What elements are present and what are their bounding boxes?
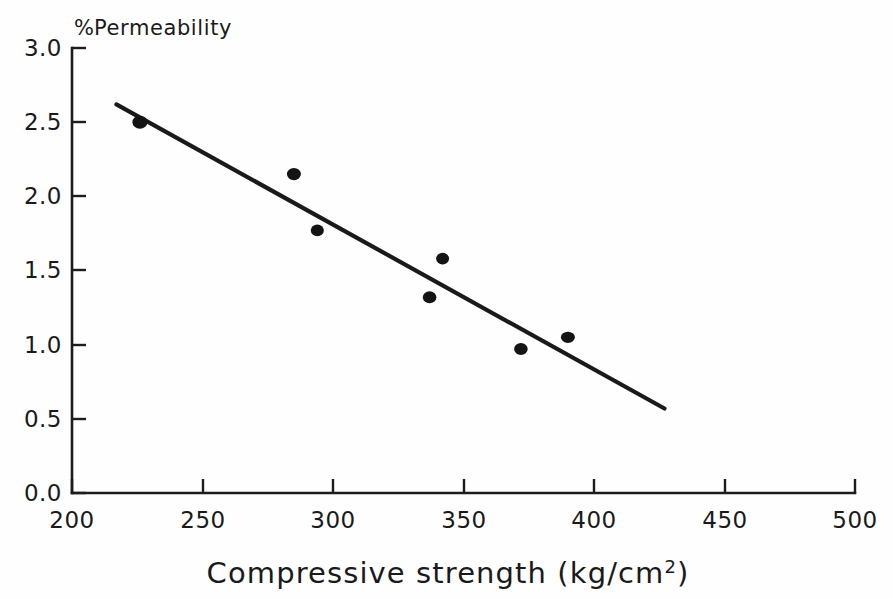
data-point <box>561 332 575 343</box>
x-tick-label: 500 <box>832 507 877 533</box>
x-axis-tick-labels: 200 250 300 350 400 450 500 <box>49 507 877 533</box>
x-tick-label: 450 <box>702 507 747 533</box>
y-tick-label: 0.5 <box>24 406 62 432</box>
data-point <box>423 291 437 303</box>
x-axis-title-close: ) <box>677 556 689 590</box>
data-point <box>132 116 147 129</box>
y-tick-label: 2.0 <box>24 183 62 209</box>
x-axis-ticks <box>72 479 855 493</box>
y-axis-ticks <box>72 48 86 493</box>
x-tick-label: 400 <box>571 507 616 533</box>
x-axis-title-superscript: 2 <box>664 556 677 577</box>
regression-trend-line <box>116 104 664 408</box>
x-tick-label: 300 <box>310 507 355 533</box>
y-tick-label: 1.5 <box>24 257 62 283</box>
data-point <box>287 168 301 180</box>
y-axis-tick-labels: 3.0 2.5 2.0 1.5 1.0 0.5 0.0 <box>24 35 62 506</box>
data-point <box>311 225 324 237</box>
scatter-plot-canvas: % Permeability 3.0 2.5 <box>0 0 893 599</box>
y-axis-label: Permeability <box>94 16 232 40</box>
y-tick-label: 2.5 <box>24 109 62 135</box>
x-axis-title: Compressive strength (kg/cm2) <box>207 556 690 590</box>
x-axis-title-main: Compressive strength (kg/cm <box>207 556 665 590</box>
y-tick-label: 3.0 <box>24 35 62 61</box>
y-tick-label: 0.0 <box>24 480 62 506</box>
y-tick-label: 1.0 <box>24 332 62 358</box>
x-tick-label: 200 <box>49 507 94 533</box>
data-point <box>436 253 449 265</box>
x-tick-label: 250 <box>180 507 225 533</box>
y-axis-label-percent: % <box>74 16 95 40</box>
data-point <box>514 343 528 355</box>
chart-figure: % Permeability 3.0 2.5 <box>0 0 893 599</box>
x-tick-label: 350 <box>441 507 486 533</box>
